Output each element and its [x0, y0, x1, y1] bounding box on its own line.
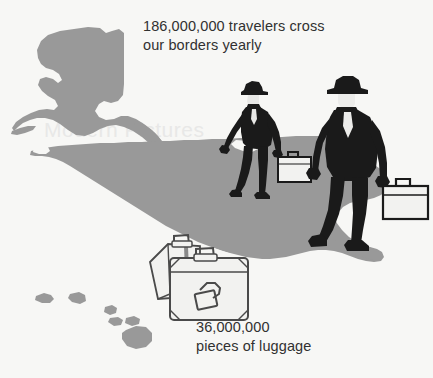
suitcase-front-body [170, 258, 248, 320]
suitcase-rear-handle-base [172, 241, 192, 247]
luggage-caption: 36,000,000 pieces of luggage [196, 318, 311, 356]
illustration-canvas: · ·· · ·· ··· Modern Pictures [0, 0, 433, 378]
suitcase-front-handle-base [194, 254, 217, 261]
travelers-caption: 186,000,000 travelers cross our borders … [143, 17, 325, 55]
suitcase-front [170, 248, 248, 320]
